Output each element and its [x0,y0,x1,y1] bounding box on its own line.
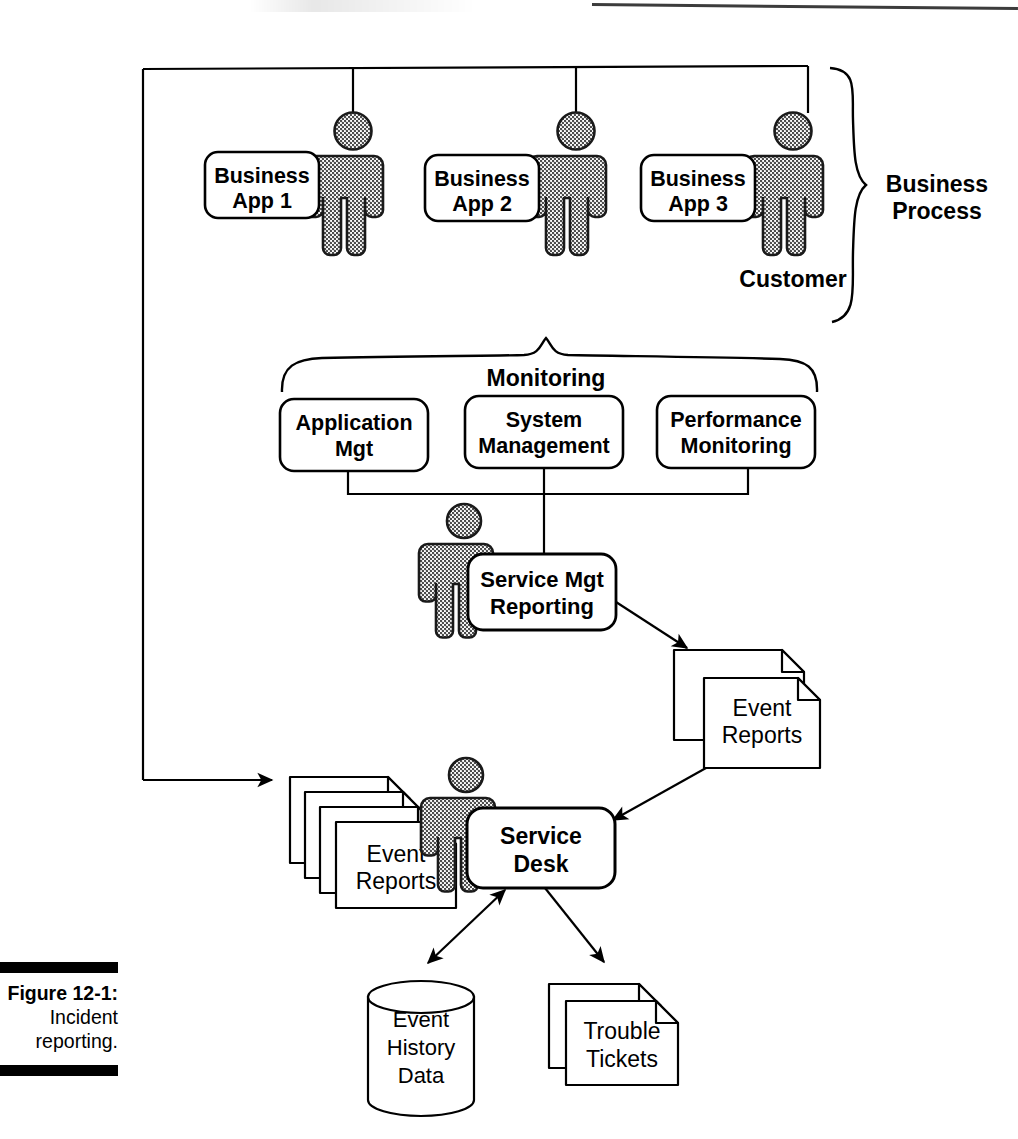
caption-line-3: reporting. [0,1030,118,1054]
service-desk-line2: Desk [514,851,569,877]
event-history-data-line1: Event [393,1007,449,1032]
business-app-1-line2: App 1 [232,189,292,213]
node-business-app-3[interactable]: Business App 3 [641,155,755,221]
performance-monitoring-line2: Monitoring [680,434,791,458]
performance-monitoring-line1: Performance [670,408,801,432]
service-mgt-reporting-line2: Reporting [490,594,594,619]
event-reports-left-line2: Reports [356,868,437,894]
node-event-reports-right[interactable]: Event Reports [674,650,820,768]
caption-number: Figure 12-1: [0,982,118,1006]
system-management-line1: System [506,408,583,432]
business-process-label: Business Process [886,171,988,224]
business-app-2-line1: Business [434,167,530,191]
business-process-label-line1: Business [886,171,988,197]
business-app-2-line2: App 2 [452,192,512,216]
node-system-management[interactable]: System Management [465,396,623,468]
caption-text: Figure 12-1: Incident reporting. [0,973,118,1059]
business-app-3-line1: Business [650,167,746,191]
business-process-label-line2: Process [892,198,982,224]
event-reports-right-line2: Reports [722,722,803,748]
caption-rule-top [0,962,118,973]
diagram-canvas: Business Process Customer Business App 1… [0,0,1018,1139]
node-application-mgt[interactable]: Application Mgt [280,399,428,471]
node-service-desk[interactable]: Service Desk [467,808,615,888]
node-event-history-data[interactable]: Event History Data [368,981,474,1116]
edge-service-desk-trouble-tickets [545,888,604,962]
node-performance-monitoring[interactable]: Performance Monitoring [657,396,815,468]
monitoring-label: Monitoring [487,365,606,391]
application-mgt-line1: Application [295,411,412,435]
customer-label: Customer [739,266,846,292]
event-reports-right-line1: Event [733,695,792,721]
figure-caption-block: Figure 12-1: Incident reporting. [0,962,118,1076]
node-trouble-tickets[interactable]: Trouble Tickets [549,984,678,1085]
edge-reporting-to-event-reports [616,602,687,648]
person-icon-customer [745,113,823,256]
caption-line-2: Incident [0,1006,118,1030]
service-mgt-reporting-line1: Service Mgt [480,567,604,592]
business-app-1-line1: Business [214,164,310,188]
node-business-app-2[interactable]: Business App 2 [425,155,539,221]
edge-event-reports-to-service-desk [613,768,706,820]
event-history-data-line3: Data [398,1063,445,1088]
service-desk-line1: Service [500,823,582,849]
application-mgt-line2: Mgt [335,437,373,461]
event-reports-left-line1: Event [367,841,426,867]
event-history-data-line2: History [387,1035,455,1060]
figure-incident-reporting: Business Process Customer Business App 1… [0,0,1018,1139]
node-business-app-1[interactable]: Business App 1 [205,152,319,218]
trouble-tickets-line2: Tickets [586,1046,658,1072]
system-management-line2: Management [478,434,609,458]
trouble-tickets-line1: Trouble [583,1018,660,1044]
business-app-3-line2: App 3 [668,192,728,216]
caption-rule-bottom [0,1065,118,1076]
node-service-mgt-reporting[interactable]: Service Mgt Reporting [468,554,616,630]
